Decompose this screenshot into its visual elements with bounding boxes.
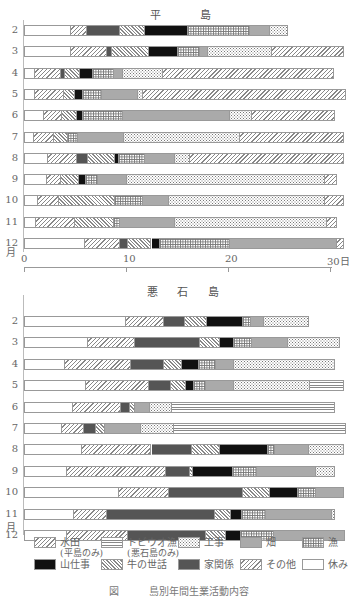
bar-segment-constr <box>234 380 309 391</box>
bar-segment-field <box>98 174 127 185</box>
month-label: 10 <box>0 194 18 205</box>
bar-segment-constr <box>124 132 240 143</box>
month-label: 3 <box>0 45 18 56</box>
month-label: 11 <box>0 216 18 227</box>
bar-segment-cattle <box>164 359 182 370</box>
legend-swatch-other <box>240 559 262 570</box>
bar-segment-other <box>337 238 344 249</box>
month-label: 6 <box>0 401 18 412</box>
legend-swatch-tobi <box>101 537 123 548</box>
bar-segment-field <box>143 195 169 206</box>
month-label: 5 <box>0 88 18 99</box>
bar-segment-rest <box>24 25 71 36</box>
bar-segment-house <box>84 423 96 434</box>
bar-segment-other <box>252 110 335 121</box>
bar-segment-rice <box>74 509 107 520</box>
bar-segment-mountain <box>270 487 299 498</box>
bar-segment-cattle <box>59 195 115 206</box>
bar-segment-cattle <box>120 25 146 36</box>
bar-segment-constr <box>141 423 174 434</box>
bottom-left-axis <box>23 295 24 535</box>
bar-segment-field <box>123 110 230 121</box>
bar-segment-rice <box>35 68 61 79</box>
bar-segment-mountain <box>149 46 178 57</box>
bar-segment-rest <box>24 217 36 228</box>
bar-segment-rice <box>44 110 61 121</box>
bar-segment-rest <box>24 174 47 185</box>
bar-segment-fish <box>160 238 230 249</box>
legend-label: 牛の世話 <box>127 559 167 570</box>
month-label: 7 <box>0 422 18 433</box>
bar-segment-rest <box>24 359 65 370</box>
bar-segment-tobi <box>172 402 335 413</box>
bar-segment-field <box>251 316 263 327</box>
bar-segment-rest <box>24 132 34 143</box>
bar-segment-fish <box>268 444 275 455</box>
bar-segment-fish <box>199 359 215 370</box>
bar-segment-house <box>121 402 130 413</box>
bar-segment-rest <box>24 487 119 498</box>
legend-item-mountain: 山仕事 <box>34 559 90 570</box>
bar-segment-cattle <box>54 132 68 143</box>
bar-segment-house <box>152 444 193 455</box>
bar-segment-cattle <box>112 46 150 57</box>
bar-segment-rice <box>119 487 169 498</box>
bar-segment-rice <box>71 25 87 36</box>
bar-segment-other <box>327 217 337 228</box>
legend-item-tobi: トビウオ漁(悪石島のみ) <box>101 537 179 559</box>
bar-segment-mountain <box>75 89 83 100</box>
bar-segment-fish <box>86 174 98 185</box>
bar-segment-fish <box>93 68 113 79</box>
bar-segment-cattle <box>64 89 75 100</box>
bar-segment-constr <box>309 444 345 455</box>
bar-segment-field <box>102 89 139 100</box>
bar-segment-house <box>131 359 164 370</box>
bar-segment-rest <box>24 380 86 391</box>
bar-segment-field <box>252 337 288 348</box>
bar-segment-field <box>145 153 175 164</box>
bar-segment-cattle <box>65 68 80 79</box>
bar-segment-rest <box>24 68 35 79</box>
figure-caption: 図 島別年間生業活動内容 <box>0 583 358 598</box>
bar-segment-other <box>240 132 344 143</box>
legend-label: 家関係 <box>204 559 234 570</box>
bar-segment-field <box>250 25 269 36</box>
bar-segment-rice <box>38 195 58 206</box>
bar-segment-rice <box>88 337 135 348</box>
bar-segment-constr <box>123 68 163 79</box>
bar-segment-cattle <box>128 238 151 249</box>
bar-segment-cattle <box>200 337 219 348</box>
month-label: 6 <box>0 109 18 120</box>
bar-segment-rest <box>24 466 67 477</box>
month-label: 7 <box>0 131 18 142</box>
x-tick-label: 20 <box>225 253 238 264</box>
bottom-chart-title: 悪 石 島 <box>8 283 358 299</box>
x-tick <box>126 267 127 272</box>
bar-segment-house <box>77 153 88 164</box>
bar-segment-rice <box>34 132 53 143</box>
bar-segment-rice <box>86 380 149 391</box>
month-label: 3 <box>0 336 18 347</box>
bar-segment-fish <box>119 153 146 164</box>
bar-segment-rice <box>47 174 60 185</box>
bar-segment-rice <box>67 466 166 477</box>
legend-swatch-rice <box>34 537 56 548</box>
bar-segment-cattle <box>62 110 77 121</box>
bar-segment-house <box>87 25 120 36</box>
bar-segment-mountain <box>145 25 188 36</box>
bar-segment-mountain <box>207 316 244 327</box>
x-tick-label: 30日 <box>327 253 350 268</box>
bar-segment-fish <box>234 337 252 348</box>
bar-segment-fish <box>68 132 78 143</box>
bar-segment-rice <box>48 153 77 164</box>
bar-segment-rice <box>85 238 120 249</box>
legend-swatch-fish <box>302 537 324 548</box>
bar-segment-cattle <box>243 487 270 498</box>
month-label: 5 <box>0 379 18 390</box>
bar-segment-fish <box>178 46 200 57</box>
bar-segment-cattle <box>192 444 220 455</box>
bar-segment-fish <box>83 110 123 121</box>
legend-item-house: 家関係 <box>178 559 234 570</box>
bar-segment-house <box>135 337 200 348</box>
legend-item-fish: 漁 <box>302 537 338 548</box>
